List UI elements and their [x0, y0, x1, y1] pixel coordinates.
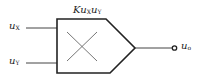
multiplier-body: [57, 19, 135, 73]
gain-sub-2: Y: [97, 8, 101, 15]
input-y-sub: Y: [15, 59, 19, 66]
output-label: uo: [181, 41, 191, 53]
output-terminal-icon: [172, 46, 176, 50]
input-y-label: uY: [9, 56, 19, 68]
input-x-label: uX: [9, 21, 20, 33]
output-sub: o: [187, 44, 191, 51]
gain-label: KuXuY: [73, 5, 101, 17]
input-x-sub: X: [15, 24, 19, 31]
